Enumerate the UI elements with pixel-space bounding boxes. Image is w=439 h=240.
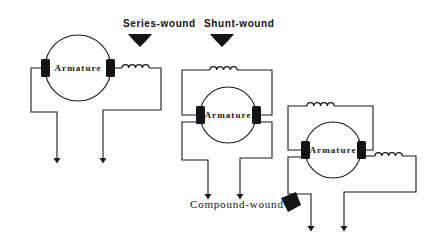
armature-label: Armature (54, 63, 101, 73)
compound-wound-label: Compound-wound (190, 198, 284, 210)
series-field-coil (122, 65, 149, 68)
series-wound-label: Series-wound (123, 18, 196, 29)
brush-blocks (41, 59, 366, 159)
lead-left-wire (182, 122, 208, 188)
brush-right (357, 141, 366, 159)
circuit-compound-wound (288, 103, 416, 228)
shunt-wound-label: Shunt-wound (204, 18, 274, 29)
series-callout-arrow-icon (128, 34, 152, 47)
diagram-canvas: Armature Armature Armature Series-wound … (0, 0, 439, 240)
lead-left-wire (31, 68, 57, 152)
shunt-callout-arrow-icon (210, 34, 234, 47)
brush-right (106, 59, 115, 77)
circuit-shunt-wound (182, 67, 272, 196)
brush-left (41, 59, 50, 77)
lead-left-wire (288, 157, 311, 220)
series-field-coil (375, 153, 402, 156)
brush-right (252, 106, 261, 124)
lead-right-wire (240, 122, 272, 188)
shunt-field-coil (210, 67, 237, 70)
shunt-loop-right (334, 106, 373, 150)
compound-callout-arrow-icon (281, 192, 301, 212)
circuit-series-wound (31, 35, 161, 160)
armature-label: Armature (204, 110, 251, 120)
armature-label: Armature (309, 145, 356, 155)
lead-right-wire (344, 156, 416, 220)
callout-arrows (128, 34, 301, 212)
lead-right-wire (103, 68, 161, 152)
shunt-field-coil (307, 103, 334, 106)
